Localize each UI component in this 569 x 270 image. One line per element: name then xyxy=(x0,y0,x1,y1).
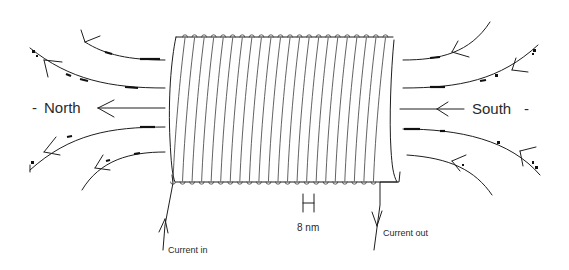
south-field-lines xyxy=(400,22,540,195)
coil-windings xyxy=(173,38,385,181)
arrow-head-icon xyxy=(81,30,100,42)
current-out-label: Current out xyxy=(383,228,429,238)
pitch-label: 8 nm xyxy=(297,222,319,233)
current-in-lead xyxy=(159,175,173,250)
solenoid-diagram: - North South - 8 nm Current in Current … xyxy=(0,0,569,270)
solenoid-coil xyxy=(169,35,397,184)
south-label: South xyxy=(472,100,511,117)
south-dash: - xyxy=(524,100,529,117)
pitch-marker xyxy=(303,194,314,212)
current-in-label: Current in xyxy=(168,245,208,255)
arrow-up-icon xyxy=(159,219,168,233)
current-out-lead xyxy=(372,172,400,250)
north-label: North xyxy=(44,99,81,116)
north-dash: - xyxy=(32,99,37,116)
